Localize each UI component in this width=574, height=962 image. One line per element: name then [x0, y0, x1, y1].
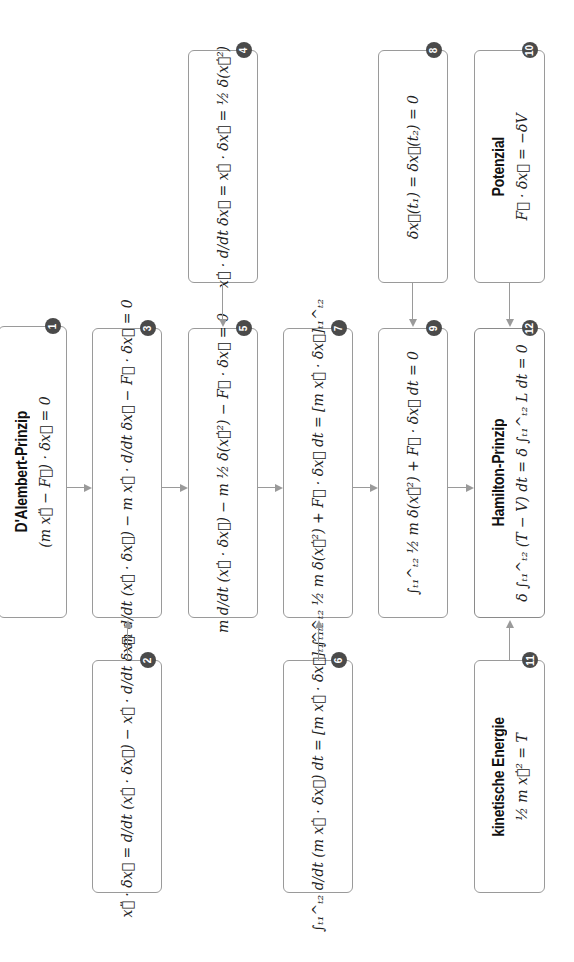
- arrow-1-3: [67, 487, 84, 488]
- node-title: Potenzial: [490, 137, 508, 196]
- arrowhead-4-5: [219, 319, 227, 327]
- badge-11: 11: [522, 652, 538, 668]
- arrowhead-7-9: [370, 484, 378, 492]
- node-step-7: ∫ₜ₁^ₜ₂ ½ m δ(x⃗̇²) + F⃗ · δx⃗ dt = [m x⃗…: [283, 328, 353, 618]
- node-dalembert-principle: D'Alembert-Prinzip (m x⃗̈ − F⃗) · δx⃗ = …: [0, 326, 67, 618]
- node-step-3: m d/dt (x⃗̇ · δx⃗) − m x⃗̇ · d/dt δx⃗ − …: [92, 328, 162, 618]
- arrow-7-9: [353, 487, 370, 488]
- arrowhead-9-12: [466, 484, 474, 492]
- node-formula: F⃗ · δx⃗ = −δV: [514, 113, 530, 220]
- node-formula: ∫ₜ₁^ₜ₂ ½ m δ(x⃗̇²) + F⃗ · δx⃗ dt = 0: [405, 351, 421, 595]
- node-content: m d/dt (x⃗̇ · δx⃗) − m ½ δ(x⃗̇²) − F⃗ · …: [215, 313, 231, 633]
- node-content: x⃗̇ · d/dt δx⃗ = x⃗̇ · δx⃗̇ = ½ δ(x⃗̇²): [215, 45, 231, 287]
- node-title: D'Alembert-Prinzip: [13, 411, 31, 532]
- badge-3: 3: [140, 320, 156, 336]
- node-formula: δx⃗(t₁) = δx⃗(t₂) = 0: [405, 95, 421, 239]
- arrow-11-12: [509, 627, 510, 660]
- badge-9: 9: [426, 320, 442, 336]
- arrowhead-5-7: [275, 484, 283, 492]
- node-formula: m d/dt (x⃗̇ · δx⃗) − m x⃗̇ · d/dt δx⃗ − …: [119, 299, 135, 647]
- arrow-9-12: [448, 487, 466, 488]
- node-content: D'Alembert-Prinzip (m x⃗̈ − F⃗) · δx⃗ = …: [13, 396, 53, 547]
- node-content: m d/dt (x⃗̇ · δx⃗) − m x⃗̇ · d/dt δx⃗ − …: [119, 299, 135, 647]
- arrow-4-5: [222, 283, 223, 320]
- badge-5: 5: [236, 320, 252, 336]
- node-content: δx⃗(t₁) = δx⃗(t₂) = 0: [405, 95, 421, 239]
- arrowhead-11-12: [506, 620, 514, 628]
- node-hamilton-principle: Hamilton-Prinzip δ ∫ₜ₁^ₜ₂ (T − V) dt = δ…: [474, 328, 545, 618]
- node-formula: δ ∫ₜ₁^ₜ₂ (T − V) dt = δ ∫ₜ₁^ₜ₂ L dt = 0: [514, 344, 530, 602]
- node-title: Hamilton-Prinzip: [490, 419, 508, 527]
- badge-6: 6: [331, 652, 347, 668]
- arrow-5-7: [258, 487, 275, 488]
- arrow-10-12: [509, 283, 510, 320]
- node-kinetic-energy: kinetische Energie ½ m x⃗̇² = T: [474, 660, 545, 893]
- node-step-2: x⃗̈ · δx⃗ = d/dt (x⃗̇ · δx⃗) − x⃗̇ · d/d…: [92, 660, 162, 893]
- badge-8: 8: [426, 42, 442, 58]
- node-content: ∫ₜ₁^ₜ₂ d/dt (m x⃗̇ · δx⃗) dt = [m x⃗̇ · …: [310, 622, 326, 932]
- node-potential: Potenzial F⃗ · δx⃗ = −δV: [474, 50, 545, 283]
- arrowhead-8-9: [409, 319, 417, 327]
- arrowhead-1-3: [84, 484, 92, 492]
- node-step-8: δx⃗(t₁) = δx⃗(t₂) = 0: [378, 50, 448, 283]
- node-step-4: x⃗̇ · d/dt δx⃗ = x⃗̇ · δx⃗̇ = ½ δ(x⃗̇²): [188, 50, 258, 283]
- node-formula: x⃗̇ · d/dt δx⃗ = x⃗̇ · δx⃗̇ = ½ δ(x⃗̇²): [215, 45, 231, 287]
- node-formula: ½ m x⃗̇² = T: [514, 733, 530, 821]
- node-formula: ∫ₜ₁^ₜ₂ ½ m δ(x⃗̇²) + F⃗ · δx⃗ dt = [m x⃗…: [310, 299, 326, 647]
- node-content: x⃗̈ · δx⃗ = d/dt (x⃗̇ · δx⃗) − x⃗̇ · d/d…: [119, 636, 135, 917]
- badge-1: 1: [45, 318, 61, 334]
- node-title: kinetische Energie: [490, 717, 508, 837]
- badge-12: 12: [522, 320, 538, 336]
- badge-4: 4: [236, 42, 252, 58]
- node-formula: ∫ₜ₁^ₜ₂ d/dt (m x⃗̇ · δx⃗) dt = [m x⃗̇ · …: [310, 622, 326, 932]
- arrow-6-7: [318, 627, 319, 660]
- node-content: ∫ₜ₁^ₜ₂ ½ m δ(x⃗̇²) + F⃗ · δx⃗ dt = [m x⃗…: [310, 299, 326, 647]
- arrowhead-2-3: [124, 620, 132, 628]
- node-content: ∫ₜ₁^ₜ₂ ½ m δ(x⃗̇²) + F⃗ · δx⃗ dt = 0: [405, 351, 421, 595]
- node-content: Hamilton-Prinzip δ ∫ₜ₁^ₜ₂ (T − V) dt = δ…: [490, 344, 530, 602]
- arrow-8-9: [412, 283, 413, 320]
- node-step-6: ∫ₜ₁^ₜ₂ d/dt (m x⃗̇ · δx⃗) dt = [m x⃗̇ · …: [283, 660, 353, 893]
- node-content: Potenzial F⃗ · δx⃗ = −δV: [490, 113, 530, 220]
- badge-10: 10: [522, 42, 538, 58]
- arrowhead-10-12: [506, 319, 514, 327]
- arrow-2-3: [127, 627, 128, 660]
- node-step-5: m d/dt (x⃗̇ · δx⃗) − m ½ δ(x⃗̇²) − F⃗ · …: [188, 328, 258, 618]
- node-formula: (m x⃗̈ − F⃗) · δx⃗ = 0: [37, 396, 53, 547]
- node-step-9: ∫ₜ₁^ₜ₂ ½ m δ(x⃗̇²) + F⃗ · δx⃗ dt = 0: [378, 328, 448, 618]
- badge-2: 2: [140, 652, 156, 668]
- node-content: kinetische Energie ½ m x⃗̇² = T: [490, 709, 530, 845]
- arrowhead-6-7: [315, 620, 323, 628]
- arrow-3-5: [162, 487, 180, 488]
- node-formula: x⃗̈ · δx⃗ = d/dt (x⃗̇ · δx⃗) − x⃗̇ · d/d…: [119, 636, 135, 917]
- badge-7: 7: [331, 320, 347, 336]
- node-formula: m d/dt (x⃗̇ · δx⃗) − m ½ δ(x⃗̇²) − F⃗ · …: [215, 313, 231, 633]
- arrowhead-3-5: [180, 484, 188, 492]
